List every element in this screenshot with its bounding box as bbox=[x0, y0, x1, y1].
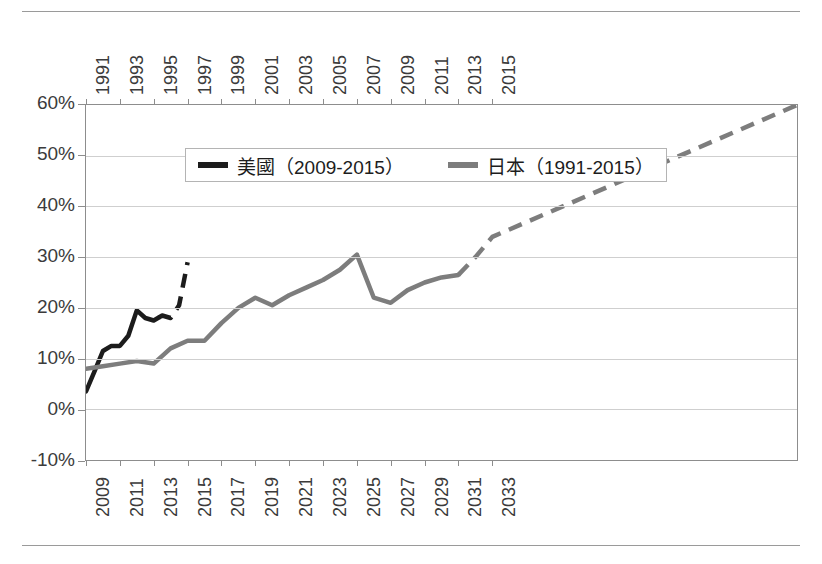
y-tick-mark--10 bbox=[78, 461, 85, 462]
gridline-30 bbox=[86, 257, 797, 258]
top-tick-mark-1993 bbox=[120, 99, 121, 104]
bottom-tick-mark-2013 bbox=[154, 461, 155, 466]
top-tick-label-2015: 2015 bbox=[499, 55, 520, 95]
top-tick-label-2007: 2007 bbox=[364, 55, 385, 95]
chart-figure: 1991199319951997199920012003200520072009… bbox=[0, 0, 822, 564]
bottom-tick-mark-2029 bbox=[425, 461, 426, 466]
top-tick-mark-2015 bbox=[492, 99, 493, 104]
legend-swatch-us bbox=[198, 162, 228, 168]
gridline-0 bbox=[86, 409, 797, 410]
bottom-tick-mark-2025 bbox=[357, 461, 358, 466]
top-tick-label-1997: 1997 bbox=[195, 55, 216, 95]
top-tick-label-2009: 2009 bbox=[398, 55, 419, 95]
bottom-tick-mark-2017 bbox=[221, 461, 222, 466]
top-tick-label-2013: 2013 bbox=[465, 55, 486, 95]
bottom-tick-mark-2031 bbox=[458, 461, 459, 466]
y-tick-mark-40 bbox=[78, 206, 85, 207]
bottom-tick-mark-2015 bbox=[188, 461, 189, 466]
legend-item-japan: 日本（1991-2015） bbox=[448, 152, 654, 179]
bottom-tick-mark-2011 bbox=[120, 461, 121, 466]
y-tick-mark-50 bbox=[78, 155, 85, 156]
y-tick-label-20: 20% bbox=[37, 296, 75, 318]
y-tick-label--10: -10% bbox=[31, 449, 75, 471]
bottom-tick-label-2021: 2021 bbox=[296, 477, 317, 517]
chart-legend: 美國（2009-2015） 日本（1991-2015） bbox=[185, 148, 667, 182]
gridline-40 bbox=[86, 206, 797, 207]
top-tick-label-2003: 2003 bbox=[296, 55, 317, 95]
series-line-us-dashed bbox=[159, 262, 188, 318]
bottom-tick-label-2033: 2033 bbox=[499, 477, 520, 517]
top-tick-mark-2003 bbox=[289, 99, 290, 104]
top-tick-mark-1997 bbox=[188, 99, 189, 104]
y-tick-mark-10 bbox=[78, 359, 85, 360]
bottom-tick-label-2009: 2009 bbox=[93, 477, 114, 517]
top-tick-label-1995: 1995 bbox=[161, 55, 182, 95]
gridline-10 bbox=[86, 359, 797, 360]
bottom-tick-label-2011: 2011 bbox=[127, 478, 148, 517]
top-tick-mark-1995 bbox=[154, 99, 155, 104]
y-tick-label-0: 0% bbox=[48, 398, 75, 420]
top-tick-mark-2009 bbox=[391, 99, 392, 104]
top-tick-mark-2005 bbox=[323, 99, 324, 104]
bottom-tick-mark-2009 bbox=[86, 461, 87, 466]
bottom-tick-mark-2019 bbox=[255, 461, 256, 466]
top-tick-label-2001: 2001 bbox=[262, 55, 283, 95]
y-tick-mark-20 bbox=[78, 308, 85, 309]
bottom-divider-rule bbox=[22, 545, 800, 546]
top-tick-label-1999: 1999 bbox=[228, 55, 249, 95]
y-tick-label-30: 30% bbox=[37, 245, 75, 267]
top-tick-mark-2013 bbox=[458, 99, 459, 104]
bottom-tick-label-2017: 2017 bbox=[228, 477, 249, 517]
bottom-tick-label-2013: 2013 bbox=[161, 477, 182, 517]
top-divider-rule bbox=[22, 11, 800, 12]
top-tick-mark-2011 bbox=[425, 99, 426, 104]
top-tick-label-1991: 1991 bbox=[93, 55, 114, 95]
series-line-japan-dashed bbox=[458, 105, 797, 275]
top-tick-label-2005: 2005 bbox=[330, 55, 351, 95]
y-tick-label-60: 60% bbox=[37, 92, 75, 114]
series-line-japan-solid bbox=[86, 255, 458, 369]
bottom-tick-label-2027: 2027 bbox=[398, 477, 419, 517]
top-tick-mark-1991 bbox=[86, 99, 87, 104]
legend-label-japan: 日本（1991-2015） bbox=[487, 152, 654, 179]
top-tick-mark-1999 bbox=[221, 99, 222, 104]
series-line-us-solid bbox=[86, 310, 159, 391]
legend-label-us: 美國（2009-2015） bbox=[237, 152, 404, 179]
legend-item-us: 美國（2009-2015） bbox=[198, 152, 404, 179]
y-tick-label-10: 10% bbox=[37, 347, 75, 369]
top-tick-mark-2001 bbox=[255, 99, 256, 104]
bottom-tick-mark-2027 bbox=[391, 461, 392, 466]
top-tick-label-2011: 2011 bbox=[432, 56, 453, 95]
bottom-tick-label-2025: 2025 bbox=[364, 477, 385, 517]
bottom-tick-label-2019: 2019 bbox=[262, 477, 283, 517]
y-tick-mark-60 bbox=[78, 104, 85, 105]
bottom-tick-mark-2033 bbox=[492, 461, 493, 466]
top-tick-mark-2007 bbox=[357, 99, 358, 104]
bottom-tick-label-2029: 2029 bbox=[432, 477, 453, 517]
y-tick-label-50: 50% bbox=[37, 143, 75, 165]
bottom-tick-label-2015: 2015 bbox=[195, 477, 216, 517]
legend-swatch-japan bbox=[448, 162, 478, 168]
gridline-20 bbox=[86, 308, 797, 309]
bottom-tick-label-2031: 2031 bbox=[465, 477, 486, 517]
y-tick-label-40: 40% bbox=[37, 194, 75, 216]
bottom-tick-mark-2021 bbox=[289, 461, 290, 466]
bottom-tick-mark-2023 bbox=[323, 461, 324, 466]
y-tick-mark-30 bbox=[78, 257, 85, 258]
bottom-tick-label-2023: 2023 bbox=[330, 477, 351, 517]
top-tick-label-1993: 1993 bbox=[127, 55, 148, 95]
y-tick-mark-0 bbox=[78, 410, 85, 411]
